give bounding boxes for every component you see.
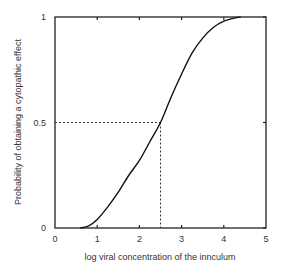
y-tick-label: 1 (41, 12, 46, 22)
dose-response-chart: 012345 00.51 log viral concentration of … (0, 0, 282, 273)
y-tick-label: 0 (41, 223, 46, 233)
x-tick-label: 3 (179, 234, 184, 244)
x-tick-label: 5 (263, 234, 268, 244)
x-tick-label: 4 (221, 234, 226, 244)
dashed-guide-lines (55, 123, 161, 229)
x-axis-label: log viral concentration of the innculum (84, 252, 235, 262)
y-tick-label: 0.5 (33, 118, 46, 128)
x-tick-label: 1 (95, 234, 100, 244)
y-axis-label: Probability of obtaining a cytopathic ef… (13, 39, 23, 205)
x-tick-label: 0 (52, 234, 57, 244)
x-tick-label: 2 (137, 234, 142, 244)
